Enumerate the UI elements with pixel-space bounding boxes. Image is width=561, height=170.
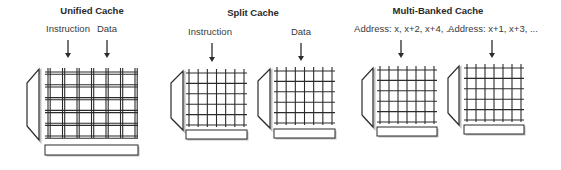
sense-amp-bar	[186, 130, 247, 139]
memory-array-grid	[377, 66, 437, 124]
memory-array-grid	[45, 68, 138, 138]
section-title: Unified Cache	[60, 6, 123, 16]
section-unified-cache	[27, 40, 140, 157]
cache-bank	[171, 69, 249, 141]
memory-array-grid	[186, 69, 247, 127]
sense-amp-bar	[464, 125, 524, 134]
cache-bank	[258, 67, 337, 140]
section-multi-banked-cache	[362, 40, 526, 138]
input-label: Instruction	[46, 24, 90, 34]
cache-bank	[27, 68, 140, 157]
sense-amp-bar	[45, 145, 138, 155]
input-label: Data	[97, 24, 117, 34]
memory-array-grid	[464, 64, 524, 122]
input-label: Address: x+1, x+3, ...	[448, 24, 538, 34]
cache-bank	[448, 64, 526, 136]
arrow-down-icon	[298, 43, 304, 61]
sense-amp-bar	[377, 127, 437, 136]
arrow-down-icon	[489, 40, 495, 58]
section-title: Split Cache	[227, 8, 279, 18]
arrow-down-icon	[104, 40, 110, 58]
decoder-shape	[362, 68, 373, 127]
cache-bank	[362, 66, 439, 138]
section-split-cache	[171, 43, 337, 141]
memory-array-grid	[274, 67, 335, 125]
arrow-down-icon	[65, 40, 71, 58]
section-title: Multi-Banked Cache	[393, 6, 484, 16]
input-label: Address: x, x+2, x+4, ...	[354, 24, 454, 34]
decoder-shape	[448, 66, 459, 125]
sense-amp-bar	[274, 129, 335, 138]
input-label: Data	[291, 27, 311, 37]
arrow-down-icon	[398, 40, 404, 58]
arrow-down-icon	[209, 43, 215, 62]
input-label: Instruction	[188, 27, 232, 37]
